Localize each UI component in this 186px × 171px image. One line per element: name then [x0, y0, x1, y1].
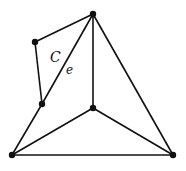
edge-label: e — [66, 63, 73, 77]
edge-center-bottom_left — [12, 108, 93, 155]
edge-top-bottom_right — [93, 14, 173, 155]
edges — [12, 14, 173, 155]
vertex-bottom_right — [170, 152, 176, 158]
edge-center-bottom_right — [93, 108, 173, 155]
vertex-center — [90, 105, 96, 111]
vertex-mid_left — [39, 101, 45, 107]
graph-svg: C e — [0, 0, 186, 171]
vertex-upper_left — [32, 39, 38, 45]
vertex-top — [90, 11, 96, 17]
cycle-label: C — [50, 49, 61, 65]
graph-diagram: C e — [0, 0, 186, 171]
edge-upper_left-mid_left — [35, 42, 42, 104]
edge-mid_left-bottom_left — [12, 104, 42, 155]
vertex-bottom_left — [9, 152, 15, 158]
